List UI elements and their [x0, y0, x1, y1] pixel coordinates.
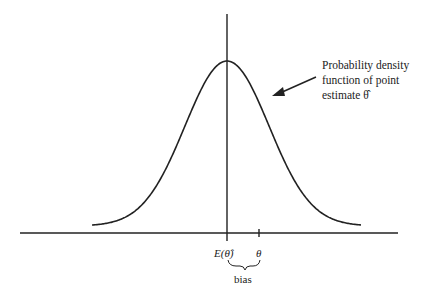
annotation-arrow	[280, 77, 316, 93]
theta-label: θ	[256, 247, 262, 259]
expected-value-label: E(θ̂)	[213, 247, 235, 260]
annotation-text: Probability density function of point es…	[322, 59, 412, 101]
annotation-line-2: function of point	[322, 74, 400, 87]
annotation-line-1: Probability density	[322, 59, 409, 72]
bias-brace	[228, 260, 260, 270]
arrowhead-icon	[272, 87, 285, 96]
annotation-line-3: estimate θ̂	[322, 89, 371, 101]
bias-label: bias	[234, 273, 252, 285]
bias-diagram: Probability density function of point es…	[0, 0, 428, 293]
